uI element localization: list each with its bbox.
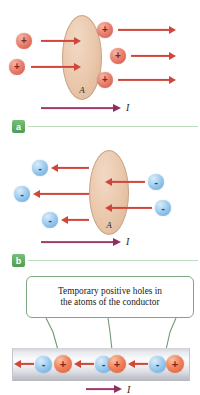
charge-sign: - xyxy=(42,359,46,370)
positive-hole: + xyxy=(166,355,184,373)
positive-charge: + xyxy=(110,48,126,64)
callout-line-2: the atoms of the conductor xyxy=(58,297,162,309)
callout-text: Temporary positive holes in the atoms of… xyxy=(54,286,166,309)
cross-section-area-ellipse-b: A xyxy=(89,150,129,235)
callout-line-1: Temporary positive holes in xyxy=(58,286,162,298)
charge-sign: - xyxy=(48,215,52,226)
positive-hole: + xyxy=(108,355,126,373)
panel-tag-letter: b xyxy=(16,256,22,266)
negative-charge: - xyxy=(149,356,166,373)
charge-sign: + xyxy=(14,62,20,72)
area-label-b: A xyxy=(106,220,112,230)
charge-sign: + xyxy=(115,51,121,61)
area-label-a: A xyxy=(79,85,85,95)
positive-charge: + xyxy=(9,59,25,75)
negative-charge: - xyxy=(14,186,30,202)
panel-divider xyxy=(28,126,198,127)
charge-sign: + xyxy=(21,36,27,46)
negative-charge: - xyxy=(148,174,164,190)
current-label-c: I xyxy=(127,384,130,395)
current-label-a: I xyxy=(126,102,129,113)
positive-hole: + xyxy=(54,355,72,373)
charge-sign: + xyxy=(172,359,178,370)
charge-sign: - xyxy=(154,177,158,188)
charge-sign: - xyxy=(156,359,160,370)
panel-tag-a: a xyxy=(12,120,25,133)
current-label-b: I xyxy=(126,236,129,247)
cross-section-area-ellipse-a: A xyxy=(62,15,102,100)
negative-charge: - xyxy=(155,200,171,216)
negative-charge: - xyxy=(42,212,58,228)
charge-sign: + xyxy=(114,359,120,370)
callout-leader-lines xyxy=(0,316,200,352)
charge-sign: - xyxy=(38,163,42,174)
positive-charge: + xyxy=(16,33,32,49)
callout-box: Temporary positive holes in the atoms of… xyxy=(26,276,194,318)
panel-c: Temporary positive holes in the atoms of… xyxy=(0,270,200,391)
panel-divider xyxy=(28,260,198,261)
charge-sign: + xyxy=(102,25,108,35)
negative-charge: - xyxy=(32,160,48,176)
panel-tag-b: b xyxy=(12,254,25,267)
negative-charge: - xyxy=(35,356,52,373)
positive-charge: + xyxy=(97,22,113,38)
charge-sign: - xyxy=(20,189,24,200)
positive-charge: + xyxy=(97,72,113,88)
charge-sign: - xyxy=(102,359,106,370)
panel-tag-letter: a xyxy=(16,122,21,132)
charge-sign: - xyxy=(161,203,165,214)
charge-sign: + xyxy=(60,359,66,370)
panel-a: A + + + + + I a xyxy=(0,0,200,130)
panel-b: A - - - - - I b xyxy=(0,134,200,264)
charge-sign: + xyxy=(102,75,108,85)
